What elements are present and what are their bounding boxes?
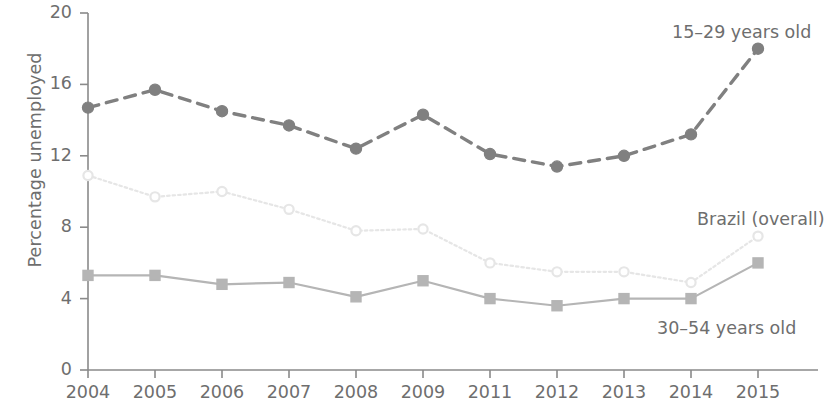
data-point-marker: [83, 171, 92, 180]
data-point-marker: [217, 279, 227, 289]
data-point-marker: [418, 276, 428, 286]
x-tick-label: 2011: [457, 382, 523, 402]
data-point-marker: [82, 102, 93, 113]
unemployment-line-chart: Percentage unemployed 048121620 20042005…: [0, 0, 826, 402]
data-point-marker: [551, 161, 562, 172]
data-point-marker: [284, 278, 294, 288]
data-point-marker: [217, 187, 226, 196]
data-point-marker: [686, 294, 696, 304]
data-point-marker: [418, 224, 427, 233]
data-point-marker: [686, 278, 695, 287]
series-annotation-3: 30–54 years old: [657, 318, 796, 338]
data-point-marker: [150, 192, 159, 201]
data-point-marker: [149, 84, 160, 95]
x-tick-label: 2009: [390, 382, 456, 402]
series-annotation-1: 15–29 years old: [672, 22, 811, 42]
x-tick-label: 2008: [323, 382, 389, 402]
data-point-marker: [552, 267, 561, 276]
data-point-marker: [753, 232, 762, 241]
series-annotation-2: Brazil (overall): [697, 209, 825, 229]
y-tick-label: 16: [30, 73, 72, 93]
y-tick-label: 12: [30, 145, 72, 165]
data-point-marker: [283, 120, 294, 131]
data-point-marker: [685, 129, 696, 140]
x-tick-label: 2006: [189, 382, 255, 402]
data-point-marker: [83, 270, 93, 280]
data-point-marker: [150, 270, 160, 280]
data-point-marker: [216, 106, 227, 117]
data-point-marker: [618, 150, 629, 161]
x-tick-label: 2013: [591, 382, 657, 402]
series-line: [88, 49, 758, 167]
series-2: [83, 171, 762, 287]
data-point-marker: [351, 226, 360, 235]
plot-area: [0, 0, 826, 402]
x-tick-label: 2015: [725, 382, 791, 402]
data-point-marker: [350, 143, 361, 154]
x-tick-label: 2012: [524, 382, 590, 402]
data-point-marker: [351, 292, 361, 302]
x-tick-label: 2007: [256, 382, 322, 402]
data-point-marker: [284, 205, 293, 214]
data-point-marker: [485, 294, 495, 304]
data-point-marker: [752, 43, 763, 54]
data-point-marker: [484, 148, 495, 159]
series-1: [82, 43, 763, 172]
series-3: [83, 258, 763, 311]
y-tick-label: 8: [30, 216, 72, 236]
x-tick-label: 2014: [658, 382, 724, 402]
data-point-marker: [619, 294, 629, 304]
data-point-marker: [417, 109, 428, 120]
series-lines: [82, 43, 763, 311]
x-tick-label: 2005: [122, 382, 188, 402]
y-tick-label: 20: [30, 2, 72, 22]
data-point-marker: [485, 258, 494, 267]
data-point-marker: [753, 258, 763, 268]
data-point-marker: [552, 301, 562, 311]
data-point-marker: [619, 267, 628, 276]
x-tick-label: 2004: [55, 382, 121, 402]
y-tick-label: 0: [30, 359, 72, 379]
y-tick-label: 4: [30, 288, 72, 308]
